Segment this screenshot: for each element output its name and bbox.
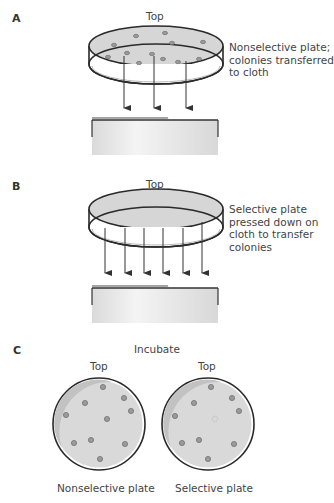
panel-b-petri-dish: [89, 189, 223, 247]
panel-b-velvet-cloth-block: [92, 285, 218, 323]
nonselective-plate-top-view: [53, 378, 145, 470]
panel-a-velvet-cloth-block: [92, 117, 218, 155]
panel-a-petri-dish: [89, 26, 223, 84]
